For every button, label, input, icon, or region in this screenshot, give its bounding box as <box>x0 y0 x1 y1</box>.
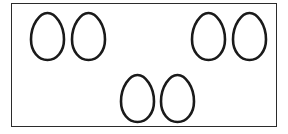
egg-shape <box>118 73 157 124</box>
scene-canvas <box>0 0 288 134</box>
egg-outline-icon <box>189 11 228 62</box>
rectangular-border <box>11 3 277 127</box>
egg-shape <box>230 11 269 62</box>
egg-outline-icon <box>230 11 269 62</box>
egg-outline-icon <box>118 73 157 124</box>
egg-shape <box>69 11 108 62</box>
egg-outline-icon <box>158 73 197 124</box>
egg-shape <box>158 73 197 124</box>
egg-shape <box>189 11 228 62</box>
egg-shape <box>28 11 67 62</box>
egg-outline-icon <box>28 11 67 62</box>
egg-outline-icon <box>69 11 108 62</box>
